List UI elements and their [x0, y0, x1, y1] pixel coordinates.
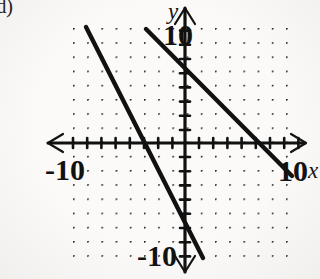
y-axis-negative-label: -10	[137, 239, 177, 272]
x-axis-name: x	[307, 158, 319, 183]
x-axis-positive-label: 10	[278, 154, 308, 187]
coordinate-plane-figure: 10 -10 -10 10 y x	[0, 0, 320, 279]
x-axis-negative-label: -10	[45, 153, 85, 186]
y-axis-name: y	[166, 0, 179, 24]
figure-page: d)	[0, 0, 320, 279]
